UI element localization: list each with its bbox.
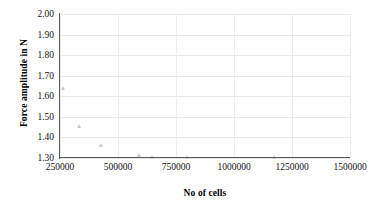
gridline-horizontal — [60, 117, 350, 118]
y-tick-label: 1.90 — [8, 30, 54, 40]
data-point — [77, 124, 81, 128]
y-axis-line — [59, 13, 60, 159]
gridline-vertical — [118, 14, 119, 158]
scatter-chart: Force amplitude in N 1.301.401.501.601.7… — [0, 0, 377, 210]
gridline-horizontal — [60, 55, 350, 56]
x-tick-label: 1500000 — [310, 162, 377, 173]
data-point — [137, 153, 141, 157]
gridline-horizontal — [60, 35, 350, 36]
data-point — [61, 86, 65, 90]
gridline-vertical — [176, 14, 177, 158]
gridline-horizontal — [60, 14, 350, 15]
x-axis-line — [59, 157, 350, 158]
plot-area — [60, 14, 350, 158]
data-point — [99, 143, 103, 147]
gridline-vertical — [292, 14, 293, 158]
y-tick-label: 1.60 — [8, 91, 54, 101]
y-tick-label: 1.70 — [8, 71, 54, 81]
y-tick-label: 1.80 — [8, 50, 54, 60]
y-tick-label: 1.50 — [8, 112, 54, 122]
y-tick-label: 1.40 — [8, 132, 54, 142]
gridline-vertical — [234, 14, 235, 158]
gridline-horizontal — [60, 137, 350, 138]
gridline-horizontal — [60, 96, 350, 97]
y-tick-label: 2.00 — [8, 9, 54, 19]
x-axis-title: No of cells — [60, 188, 350, 198]
gridline-vertical — [350, 14, 351, 158]
gridline-horizontal — [60, 76, 350, 77]
y-axis-tick-labels: 1.301.401.501.601.701.801.902.00 — [6, 0, 54, 210]
